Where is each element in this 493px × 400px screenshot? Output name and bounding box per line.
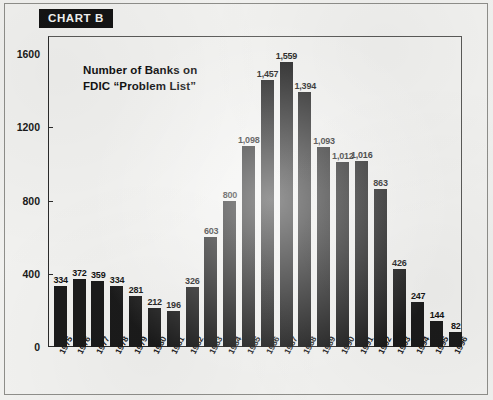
bar-slot: 1,012 xyxy=(333,36,352,347)
bar xyxy=(355,161,368,347)
bar-slot: 1,016 xyxy=(352,36,371,347)
bar-value-label: 247 xyxy=(411,291,425,301)
bar-value-label: 1,394 xyxy=(294,81,316,91)
bar-slot: 800 xyxy=(221,36,240,347)
bar-value-label: 1,016 xyxy=(351,150,373,160)
y-axis-tick-label: 800 xyxy=(0,195,40,207)
bar-slot: 426 xyxy=(390,36,409,347)
bar-slot: 334 xyxy=(51,36,70,347)
bar-value-label: 144 xyxy=(430,310,444,320)
chart-title: Number of Banks on FDIC “Problem List” xyxy=(83,62,197,94)
bar-value-label: 1,093 xyxy=(313,136,335,146)
bar-slot: 1,457 xyxy=(258,36,277,347)
bar-slot: 863 xyxy=(371,36,390,347)
bar-value-label: 1,559 xyxy=(276,51,298,61)
bar-value-label: 863 xyxy=(373,178,387,188)
bar xyxy=(204,237,217,347)
bar-slot: 1,093 xyxy=(315,36,334,347)
bar-value-label: 334 xyxy=(110,275,124,285)
bar xyxy=(317,147,330,347)
y-axis-tick-label: 400 xyxy=(0,268,40,280)
bar-value-label: 334 xyxy=(53,275,67,285)
bar-value-label: 800 xyxy=(223,190,237,200)
bar-value-label: 603 xyxy=(204,226,218,236)
bar xyxy=(280,62,293,347)
bar-slot: 1,394 xyxy=(296,36,315,347)
bar-value-label: 82 xyxy=(451,321,461,331)
bar-value-label: 1,098 xyxy=(238,135,260,145)
bar-value-label: 326 xyxy=(185,276,199,286)
y-axis-tick-label: 1600 xyxy=(0,48,40,60)
bar-slot: 82 xyxy=(446,36,465,347)
bar-slot: 247 xyxy=(409,36,428,347)
bar xyxy=(223,201,236,347)
x-axis: 1975197619771978197919801981198219831984… xyxy=(48,349,462,399)
bar xyxy=(242,146,255,347)
bar-value-label: 281 xyxy=(129,285,143,295)
bar-value-label: 212 xyxy=(147,297,161,307)
chart-title-line-2: FDIC “Problem List” xyxy=(83,78,197,94)
bar-value-label: 196 xyxy=(166,300,180,310)
bar xyxy=(336,162,349,347)
bar-value-label: 372 xyxy=(72,268,86,278)
bar-value-label: 1,457 xyxy=(257,69,279,79)
y-axis-tick-label: 1200 xyxy=(0,121,40,133)
y-axis-tick-label: 0 xyxy=(0,341,40,353)
bar xyxy=(298,92,311,347)
bar-slot: 144 xyxy=(428,36,447,347)
chart-title-line-1: Number of Banks on xyxy=(83,62,197,78)
bar-value-label: 426 xyxy=(392,258,406,268)
bar-slot: 1,098 xyxy=(239,36,258,347)
bar-value-label: 359 xyxy=(91,270,105,280)
bar-slot: 1,559 xyxy=(277,36,296,347)
bar-slot: 603 xyxy=(202,36,221,347)
chart-badge: CHART B xyxy=(39,9,113,28)
chart-plot-wrapper: 040080012001600 334372359334281212196326… xyxy=(0,0,493,400)
bar xyxy=(261,80,274,347)
bar xyxy=(374,189,387,347)
